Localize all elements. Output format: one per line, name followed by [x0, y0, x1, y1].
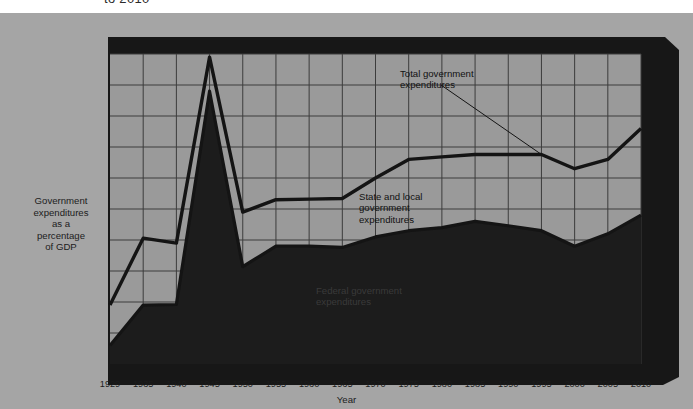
y-axis-caption-line-2: expenditures — [18, 207, 104, 219]
y-axis-caption-line-3: as a — [18, 218, 104, 230]
x-axis-tick-labels: 1929193519401945195019551960196519701975… — [108, 379, 679, 393]
y-axis-caption-line-1: Government — [18, 195, 104, 207]
x-tick-1950: 1950 — [233, 379, 253, 389]
x-tick-1985: 1985 — [465, 379, 485, 389]
x-tick-1940: 1940 — [166, 379, 186, 389]
x-tick-1980: 1980 — [432, 379, 452, 389]
x-tick-1970: 1970 — [365, 379, 385, 389]
y-axis-caption-line-4: percentage — [18, 230, 104, 242]
x-tick-1945: 1945 — [199, 379, 219, 389]
x-tick-1960: 1960 — [299, 379, 319, 389]
annotation-federal-government-expenditures: Federal government expenditures — [316, 285, 402, 308]
x-tick-1990: 1990 — [498, 379, 518, 389]
x-axis-title: Year — [0, 394, 693, 405]
figure-panel: Government expenditures as a percentage … — [0, 13, 693, 409]
x-tick-2000: 2000 — [564, 379, 584, 389]
x-tick-1975: 1975 — [398, 379, 418, 389]
figure-title-partial: to 2010 — [104, 0, 149, 6]
x-tick-1929: 1929 — [100, 379, 120, 389]
y-axis-caption-line-5: of GDP — [18, 241, 104, 253]
annotation-state-and-local-government-expenditures: State and local government expenditures — [359, 191, 422, 225]
x-tick-1955: 1955 — [266, 379, 286, 389]
y-axis-caption: Government expenditures as a percentage … — [18, 195, 104, 253]
x-tick-1935: 1935 — [133, 379, 153, 389]
annotation-total-government-expenditures: Total government expenditures — [400, 68, 474, 91]
figure-title-strip: to 2010 — [0, 0, 693, 13]
x-tick-2010: 2010 — [631, 379, 651, 389]
x-tick-1995: 1995 — [531, 379, 551, 389]
x-tick-1965: 1965 — [332, 379, 352, 389]
x-tick-2005: 2005 — [598, 379, 618, 389]
